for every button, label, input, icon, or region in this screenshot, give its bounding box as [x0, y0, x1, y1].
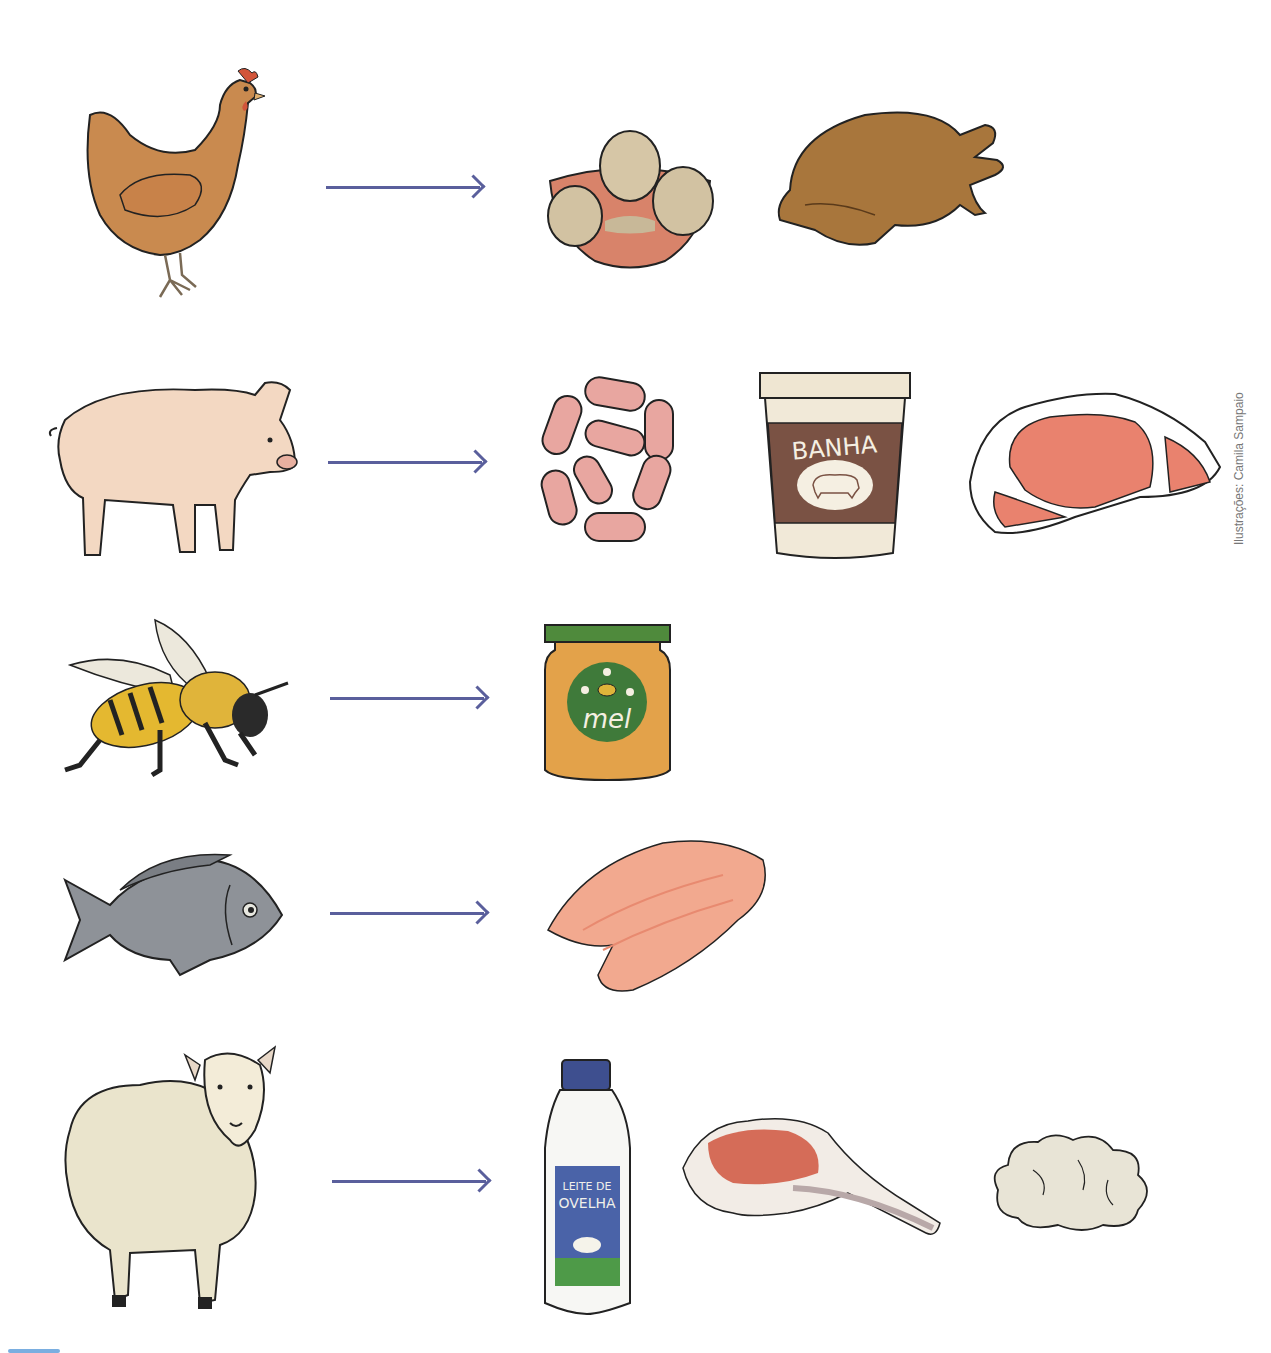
page-corner-tab: [8, 1349, 60, 1353]
honey-jar-icon: mel: [540, 620, 675, 785]
sheep-milk-bottle-icon: LEITE DE OVELHA: [540, 1058, 635, 1316]
wool-icon: [988, 1130, 1158, 1235]
milk-bottle-label-line2: OVELHA: [558, 1195, 616, 1211]
arrow-pig-to-products: [328, 461, 482, 464]
pig-icon: [45, 380, 300, 560]
bee-icon: [60, 615, 295, 785]
hen-icon: [70, 65, 270, 310]
lard-tub-icon: BANHA: [755, 368, 915, 563]
milk-bottle-label-line1: LEITE DE: [563, 1180, 612, 1193]
sausages-icon: [540, 375, 695, 550]
illustration-credit: Ilustrações: Camila Sampaio: [1232, 392, 1246, 545]
arrow-bee-to-products: [330, 697, 484, 700]
sheep-icon: [60, 1045, 285, 1315]
pork-steak-icon: [965, 382, 1225, 537]
roast-chicken-icon: [775, 105, 1015, 250]
arrow-hen-to-products: [326, 186, 480, 189]
fish-icon: [60, 850, 290, 980]
fish-fillet-icon: [543, 835, 773, 995]
eggs-bowl-icon: [545, 126, 715, 271]
arrow-fish-to-products: [330, 912, 484, 915]
lamb-chop-icon: [678, 1113, 943, 1243]
arrow-sheep-to-products: [332, 1180, 486, 1183]
honey-jar-label: mel: [583, 704, 632, 734]
